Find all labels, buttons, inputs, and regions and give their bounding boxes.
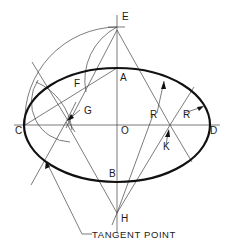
label-r-2: R [183, 109, 190, 120]
bisector-arc-left [31, 80, 70, 142]
bisector-line [32, 62, 75, 132]
line-k-up [170, 87, 194, 125]
label-c: C [15, 125, 22, 136]
label-h: H [121, 213, 128, 224]
label-f: F [74, 78, 80, 89]
arrow-head [197, 106, 204, 111]
label-g: G [84, 105, 92, 116]
label-r-1: R [150, 109, 157, 120]
line-h-ext [112, 213, 117, 225]
arrow-head [165, 129, 170, 137]
line-h-k [117, 125, 170, 213]
label-b: B [109, 168, 116, 179]
label-d: D [210, 125, 217, 136]
line-k-ext [170, 125, 192, 162]
label-k: K [163, 141, 170, 152]
label-a: A [120, 72, 127, 83]
label-tangent-point: TANGENT POINT [92, 229, 176, 240]
label-e: E [122, 11, 129, 22]
label-o: O [121, 125, 129, 136]
ellipse-construction-diagram: E A F G C O D R R K B H TANGENT POINT [0, 0, 228, 250]
